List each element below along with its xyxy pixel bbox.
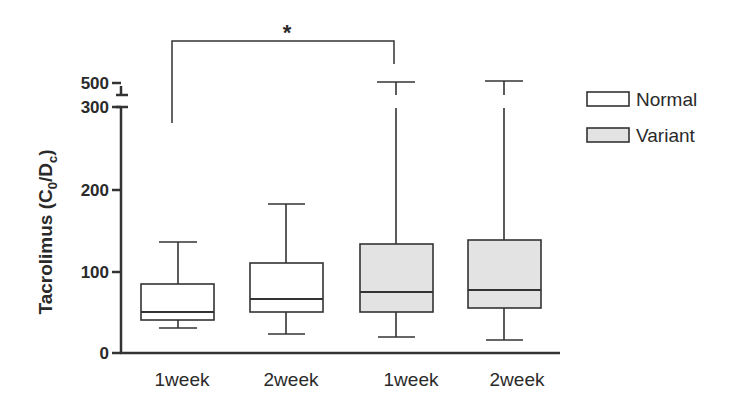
legend-label-normal: Normal xyxy=(636,89,697,110)
y-axis xyxy=(112,83,128,353)
x-label-normal-2week: 2week xyxy=(264,369,319,390)
legend-item-normal: Normal xyxy=(587,89,697,110)
significance-bracket xyxy=(172,41,394,123)
box-variant-1week xyxy=(360,82,433,337)
legend-swatch-normal xyxy=(587,92,629,106)
y-tick-100: 100 xyxy=(81,263,109,282)
x-label-normal-1week: 1week xyxy=(155,369,210,390)
box-normal-2week xyxy=(250,204,323,334)
significance-asterisk: * xyxy=(283,20,292,45)
legend-swatch-variant xyxy=(587,128,629,142)
box-variant-2week xyxy=(468,81,541,340)
legend: Normal Variant xyxy=(587,89,697,146)
legend-item-variant: Variant xyxy=(587,125,696,146)
y-tick-0: 0 xyxy=(100,344,109,363)
y-axis-label: Tacrolimus (C0/Dc) xyxy=(35,149,60,314)
y-tick-500: 500 xyxy=(81,74,109,93)
box-normal-1week xyxy=(141,242,214,328)
x-tick-labels: 1week 2week 1week 2week xyxy=(155,369,545,390)
y-tick-200: 200 xyxy=(81,181,109,200)
box-plot-chart: Tacrolimus (C0/Dc) 500 300 200 100 0 1we… xyxy=(0,0,743,412)
x-label-variant-2week: 2week xyxy=(490,369,545,390)
y-tick-300: 300 xyxy=(81,98,109,117)
legend-label-variant: Variant xyxy=(636,125,696,146)
x-label-variant-1week: 1week xyxy=(384,369,439,390)
y-tick-labels: 500 300 200 100 0 xyxy=(81,74,109,363)
